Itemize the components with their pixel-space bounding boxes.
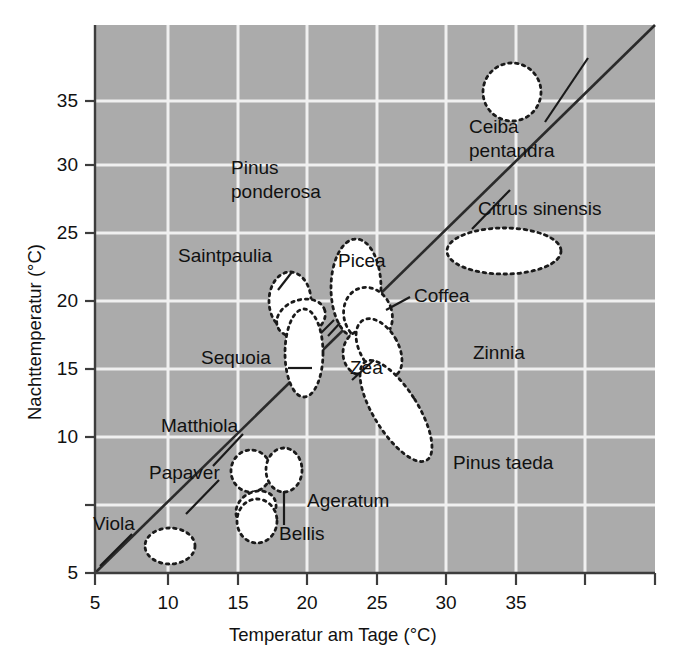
species-label-ageratum: Ageratum xyxy=(307,490,389,511)
x-tick-label-10: 10 xyxy=(143,592,193,614)
x-tick-label-30: 30 xyxy=(421,592,471,614)
x-tick-label-25: 25 xyxy=(352,592,402,614)
species-label-papaver: Papaver xyxy=(149,462,220,483)
plot-canvas xyxy=(0,0,680,661)
x-tick-label-35: 35 xyxy=(491,592,541,614)
y-tick-label-30: 30 xyxy=(30,154,78,176)
x-tick-label-5: 5 xyxy=(70,592,120,614)
y-tick-label-35: 35 xyxy=(30,90,78,112)
species-label-zinnia: Zinnia xyxy=(473,342,525,363)
species-label-citrus-sinensis: Citrus sinensis xyxy=(478,198,602,219)
ellipse-sequoia xyxy=(285,309,323,397)
species-label-ceiba-line2: pentandra xyxy=(469,140,555,161)
y-axis-title: Nachttemperatur (°C) xyxy=(24,244,46,420)
ellipse-ceiba-pentandra xyxy=(483,63,541,121)
ellipse-viola xyxy=(145,528,195,564)
x-tick-label-15: 15 xyxy=(213,592,263,614)
species-label-sequoia: Sequoia xyxy=(201,347,271,368)
ellipse-ageratum xyxy=(266,448,302,492)
temperature-scatter-figure: 5 10 15 20 25 30 35 5 10 15 20 25 30 35 … xyxy=(0,0,680,661)
species-label-pinus-ponderosa-line2: ponderosa xyxy=(231,181,321,202)
species-label-viola: Viola xyxy=(93,513,135,534)
species-label-bellis: Bellis xyxy=(279,523,324,544)
y-tick-label-10: 10 xyxy=(30,426,78,448)
y-tick-label-5: 5 xyxy=(30,562,78,584)
x-axis-title: Temperatur am Tage (°C) xyxy=(229,624,437,646)
species-label-ceiba-line1: Ceiba xyxy=(469,116,519,137)
species-label-pinus-taeda: Pinus taeda xyxy=(453,452,553,473)
species-label-saintpaulia: Saintpaulia xyxy=(178,245,272,266)
species-label-pinus-ponderosa-line1: Pinus xyxy=(231,157,279,178)
y-tick-label-25: 25 xyxy=(30,222,78,244)
species-label-zea: Zea xyxy=(350,357,383,378)
x-tick-label-20: 20 xyxy=(282,592,332,614)
species-label-matthiola: Matthiola xyxy=(161,415,238,436)
species-label-picea: Picea xyxy=(338,250,386,271)
ellipse-bellis xyxy=(237,499,277,543)
ellipse-matthiola xyxy=(231,450,271,492)
ellipse-citrus-sinensis xyxy=(447,228,561,274)
species-label-coffea: Coffea xyxy=(414,285,470,306)
